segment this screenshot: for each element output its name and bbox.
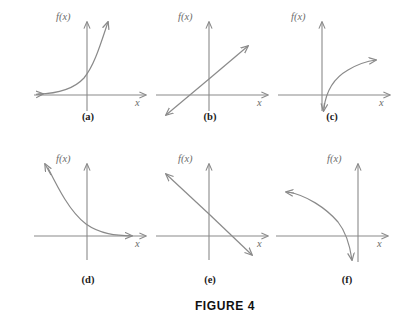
panel-b-y-axis-label: f(x) bbox=[178, 12, 193, 23]
panel-a-y-axis-label: f(x) bbox=[56, 12, 71, 23]
curve-increasing-line-upper bbox=[209, 46, 248, 79]
panel-f: f(x) x bbox=[262, 150, 400, 276]
panel-e-graph bbox=[140, 150, 278, 276]
panel-e: f(x) x bbox=[140, 150, 278, 276]
panel-c-caption: (c) bbox=[302, 112, 362, 123]
panel-d-caption: (d) bbox=[58, 275, 118, 286]
panel-a-caption: (a) bbox=[58, 112, 118, 123]
curve-increasing-line-lower bbox=[166, 79, 209, 115]
curve-left-arrow bbox=[36, 94, 43, 95]
panel-e-x-axis-label: x bbox=[257, 239, 262, 250]
curve-decreasing-logarithm bbox=[288, 192, 352, 260]
curve-left-arrow bbox=[286, 192, 294, 193]
curve-decreasing-line-lower bbox=[209, 214, 252, 255]
curve-increasing-exponential bbox=[38, 22, 108, 94]
panel-d-y-axis-label: f(x) bbox=[56, 154, 71, 165]
panel-f-caption: (f) bbox=[317, 275, 377, 286]
figure-container: f(x) x (a) f(x) x (b) bbox=[0, 0, 416, 329]
curve-upleft-arrow bbox=[45, 164, 51, 175]
panel-c-y-axis-label: f(x) bbox=[291, 12, 306, 23]
curve-decreasing-exponential bbox=[48, 168, 132, 236]
figure-title: FIGURE 4 bbox=[145, 300, 305, 312]
panel-f-x-axis-label: x bbox=[377, 239, 382, 250]
panel-f-y-axis-label: f(x) bbox=[327, 154, 342, 165]
curve-down-arrow bbox=[324, 103, 325, 111]
panel-d: f(x) x bbox=[18, 150, 156, 276]
panel-b-caption: (b) bbox=[180, 112, 240, 123]
panel-e-caption: (e) bbox=[180, 275, 240, 286]
curve-increasing-logarithm bbox=[324, 60, 376, 108]
panel-e-y-axis-label: f(x) bbox=[178, 154, 193, 165]
panel-c-x-axis-label: x bbox=[379, 98, 384, 109]
panel-f-graph bbox=[262, 150, 400, 276]
panel-d-x-axis-label: x bbox=[135, 239, 140, 250]
panel-a-x-axis-label: x bbox=[135, 98, 140, 109]
curve-decreasing-line-upper bbox=[166, 174, 209, 214]
panel-d-graph bbox=[18, 150, 156, 276]
panel-b-x-axis-label: x bbox=[257, 98, 262, 109]
